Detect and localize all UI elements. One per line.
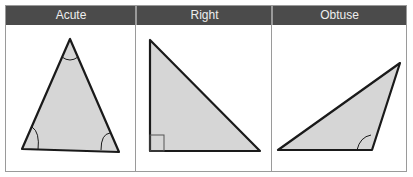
obtuse-triangle [278, 63, 400, 150]
triangles-figure [0, 0, 413, 177]
acute-triangle [22, 39, 119, 152]
right-triangle [150, 40, 260, 151]
